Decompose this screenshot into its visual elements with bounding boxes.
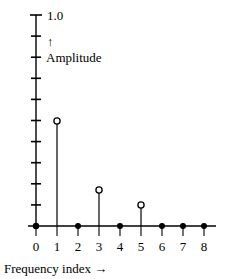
data-point-0: [33, 223, 38, 228]
data-point-6: [160, 224, 165, 229]
data-markers-group: [33, 118, 206, 229]
data-point-7: [181, 224, 186, 229]
y-max-label: 1.0: [47, 8, 63, 23]
stems-group: [57, 121, 141, 226]
chart-canvas: 1.0 ↑ Amplitude: [0, 0, 225, 279]
data-point-4: [118, 224, 123, 229]
x-tick-label-8: 8: [201, 239, 208, 254]
data-point-8: [202, 224, 207, 229]
x-tick-label-2: 2: [75, 239, 82, 254]
x-tick-label-7: 7: [180, 239, 187, 254]
up-arrow-icon: ↑: [47, 34, 54, 49]
data-point-3: [96, 187, 102, 193]
x-tick-label-5: 5: [138, 239, 145, 254]
x-axis-label: Frequency index →: [4, 261, 107, 276]
x-tick-label-3: 3: [96, 239, 103, 254]
x-tick-label-0: 0: [33, 239, 40, 254]
data-point-1: [54, 118, 60, 124]
y-axis-group: [30, 15, 42, 227]
stem-plot-figure: 1.0 ↑ Amplitude: [0, 0, 225, 279]
y-axis-label: Amplitude: [46, 50, 102, 65]
x-tick-label-1: 1: [54, 239, 61, 254]
x-tick-label-6: 6: [159, 239, 166, 254]
x-tick-label-4: 4: [117, 239, 124, 254]
data-point-5: [138, 202, 144, 208]
x-tick-labels-group: 0 1 2 3 4 5 6 7 8: [33, 239, 208, 254]
data-point-2: [76, 224, 81, 229]
